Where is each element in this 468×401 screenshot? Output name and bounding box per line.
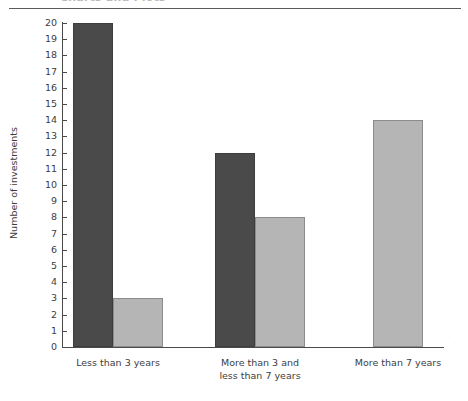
y-tick-label-17: 17 xyxy=(3,67,57,77)
x-category-label-2: More than 3 andless than 7 years xyxy=(200,357,320,382)
y-tick-0 xyxy=(63,347,67,348)
y-tick-label-18: 18 xyxy=(3,50,57,60)
y-tick-label-19: 19 xyxy=(3,34,57,44)
x-category-label-3-line-1: More than 7 years xyxy=(338,357,458,370)
y-tick-label-3: 3 xyxy=(3,293,57,303)
x-category-label-2-line-1: More than 3 and xyxy=(200,357,320,370)
y-tick-label-2: 2 xyxy=(3,310,57,320)
x-category-label-1: Less than 3 years xyxy=(58,357,178,370)
y-tick-label-16: 16 xyxy=(3,83,57,93)
bar-s1-c2 xyxy=(215,153,255,347)
bar-s2-c3 xyxy=(373,120,423,347)
x-category-label-3: More than 7 years xyxy=(338,357,458,370)
y-tick-label-4: 4 xyxy=(3,277,57,287)
x-category-label-1-line-1: Less than 3 years xyxy=(58,357,178,370)
x-axis-line xyxy=(62,347,444,348)
bar-s2-c2 xyxy=(255,217,305,347)
y-tick-label-1: 1 xyxy=(3,326,57,336)
plot-area xyxy=(63,23,444,347)
y-tick-label-5: 5 xyxy=(3,261,57,271)
y-tick-label-20: 20 xyxy=(3,18,57,28)
bar-s2-c1 xyxy=(113,298,163,347)
bar-s1-c1 xyxy=(73,23,113,347)
bar-chart: 01234567891011121314151617181920 Number … xyxy=(0,0,468,401)
y-axis-title: Number of investments xyxy=(9,108,19,258)
x-category-label-2-line-2: less than 7 years xyxy=(200,370,320,383)
y-tick-label-0: 0 xyxy=(3,342,57,352)
